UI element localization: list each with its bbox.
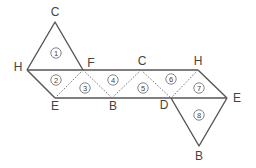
vertex-label-f: F <box>87 56 94 70</box>
vertex-label-e-right: E <box>233 91 241 105</box>
vertex-label-h-right: H <box>194 54 203 68</box>
face-label-5: 5 <box>138 83 148 93</box>
left-edge <box>27 70 55 98</box>
svg-text:6: 6 <box>169 75 173 84</box>
svg-text:2: 2 <box>54 76 58 85</box>
vertex-label-e-left: E <box>51 99 59 113</box>
svg-text:7: 7 <box>197 84 201 93</box>
face-label-4: 4 <box>108 75 118 85</box>
svg-text:5: 5 <box>141 84 145 93</box>
octahedron-net-diagram: C H F E B C H D E B 1 2 3 4 5 <box>0 0 256 168</box>
svg-text:3: 3 <box>83 84 87 93</box>
svg-text:4: 4 <box>111 76 115 85</box>
fold-H-D <box>171 70 198 98</box>
svg-text:1: 1 <box>54 49 58 58</box>
face-label-8: 8 <box>194 110 204 120</box>
face-label-6: 6 <box>166 74 176 84</box>
svg-text:8: 8 <box>197 111 201 120</box>
face-8-outline <box>171 98 227 146</box>
fold-lines <box>55 70 198 98</box>
vertex-label-d: D <box>160 98 169 112</box>
vertex-label-h-left: H <box>14 60 23 74</box>
face-labels: 1 2 3 4 5 6 7 8 <box>51 48 204 120</box>
face-label-7: 7 <box>194 83 204 93</box>
face-label-3: 3 <box>80 83 90 93</box>
vertex-label-b-bottom: B <box>195 149 203 163</box>
vertex-labels: C H F E B C H D E B <box>14 5 241 163</box>
vertex-label-b-mid: B <box>109 99 117 113</box>
vertex-label-c-top: C <box>51 5 60 19</box>
face-label-1: 1 <box>51 48 61 58</box>
face-label-2: 2 <box>51 75 61 85</box>
face-1-outline <box>27 22 83 70</box>
vertex-label-c-mid: C <box>138 54 147 68</box>
